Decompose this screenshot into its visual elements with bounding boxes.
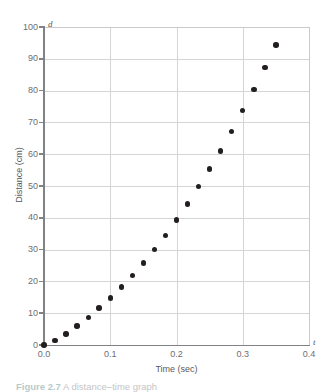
x-tick-label-0.2: 0.2 bbox=[162, 350, 192, 359]
data-point bbox=[218, 148, 223, 153]
y-tick-label-30: 30 bbox=[28, 245, 38, 254]
y-tick-label-100: 100 bbox=[23, 23, 38, 32]
plot-area bbox=[44, 27, 309, 345]
data-point bbox=[41, 342, 46, 347]
y-tick-mark-70 bbox=[39, 122, 43, 124]
y-tick-label-90: 90 bbox=[28, 54, 38, 63]
y-tick-mark-60 bbox=[39, 153, 43, 155]
data-point bbox=[185, 201, 190, 206]
y-tick-label-60: 60 bbox=[28, 150, 38, 159]
y-tick-mark-80 bbox=[39, 90, 43, 92]
y-tick-label-20: 20 bbox=[28, 277, 38, 286]
y-tick-label-40: 40 bbox=[28, 213, 38, 222]
y-tick-mark-10 bbox=[39, 312, 43, 314]
data-point bbox=[74, 323, 79, 328]
y-tick-label-70: 70 bbox=[28, 118, 38, 127]
x-tick-label-0.4: 0.4 bbox=[294, 350, 324, 359]
y-tick-mark-20 bbox=[39, 281, 43, 283]
figure-caption: Figure 2.7 A distance–time graph bbox=[16, 381, 157, 392]
data-point bbox=[63, 331, 68, 336]
x-variable-symbol: t bbox=[313, 338, 316, 347]
data-point bbox=[119, 284, 124, 289]
y-tick-mark-90 bbox=[39, 58, 43, 60]
data-point bbox=[52, 338, 57, 343]
data-point bbox=[240, 108, 245, 113]
data-point bbox=[207, 166, 212, 171]
x-tick-label-0: 0.0 bbox=[29, 350, 59, 359]
figure-caption-text: A distance–time graph bbox=[63, 381, 157, 392]
data-point bbox=[251, 87, 256, 92]
data-point bbox=[152, 247, 157, 252]
x-axis-title: Time (sec) bbox=[44, 364, 309, 374]
y-tick-label-50: 50 bbox=[28, 182, 38, 191]
figure-caption-prefix: Figure bbox=[16, 381, 45, 392]
data-point bbox=[174, 217, 179, 222]
data-point bbox=[196, 184, 201, 189]
data-point bbox=[262, 65, 267, 70]
x-tick-label-0.3: 0.3 bbox=[228, 350, 258, 359]
data-point bbox=[130, 273, 135, 278]
data-point bbox=[141, 260, 146, 265]
y-tick-mark-100 bbox=[39, 26, 43, 28]
y-axis-title: Distance (cm) bbox=[14, 115, 24, 235]
data-point bbox=[229, 129, 234, 134]
data-point bbox=[108, 295, 113, 300]
y-tick-mark-50 bbox=[39, 185, 43, 187]
y-tick-mark-30 bbox=[39, 249, 43, 251]
data-point bbox=[273, 42, 278, 47]
y-tick-label-10: 10 bbox=[28, 309, 38, 318]
y-tick-label-80: 80 bbox=[28, 86, 38, 95]
x-tick-label-0.1: 0.1 bbox=[95, 350, 125, 359]
y-variable-symbol: d bbox=[48, 20, 53, 29]
data-point bbox=[86, 315, 91, 320]
y-tick-mark-40 bbox=[39, 217, 43, 219]
data-point bbox=[163, 233, 168, 238]
data-point bbox=[96, 305, 101, 310]
figure-caption-number: 2.7 bbox=[48, 381, 61, 392]
